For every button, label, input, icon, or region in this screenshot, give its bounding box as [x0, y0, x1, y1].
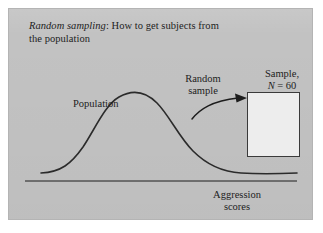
sample-box: [247, 92, 300, 157]
label-x-axis-line2: scores: [197, 201, 277, 213]
label-sample-box: Sample, N = 60: [246, 68, 318, 92]
label-x-axis-line1: Aggression: [197, 189, 277, 201]
label-population: Population: [73, 98, 119, 110]
random-sample-arrow-head: [235, 94, 247, 103]
label-x-axis: Aggression scores: [197, 189, 277, 213]
sample-size-symbol: N: [268, 80, 275, 91]
label-random-sample: Random sample: [177, 73, 229, 97]
sample-size-value: = 60: [275, 80, 297, 91]
figure-panel: Random sampling: How to get subjects fro…: [8, 8, 313, 220]
label-sample-box-line2: N = 60: [246, 80, 318, 92]
figure-container: Random sampling: How to get subjects fro…: [0, 0, 323, 233]
label-random-sample-line1: Random: [177, 73, 229, 85]
label-random-sample-line2: sample: [177, 85, 229, 97]
random-sample-arrow-shaft: [192, 98, 238, 119]
label-sample-box-line1: Sample,: [246, 68, 318, 80]
